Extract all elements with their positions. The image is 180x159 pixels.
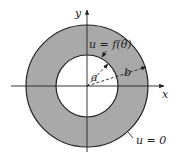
inner-radius-label: a <box>91 71 98 84</box>
inner-boundary-condition: u = f(θ) <box>89 38 132 51</box>
x-axis-label: x <box>162 88 169 101</box>
outer-boundary-pointer <box>128 132 133 138</box>
annulus-diagram: y x u = f(θ) a b u = 0 <box>0 0 180 159</box>
outer-radius-label: b <box>124 66 131 79</box>
y-axis-label: y <box>74 7 82 20</box>
outer-boundary-condition: u = 0 <box>136 134 166 147</box>
